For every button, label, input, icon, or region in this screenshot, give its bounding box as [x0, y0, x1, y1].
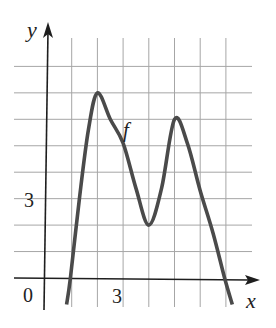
origin-label: 0	[23, 285, 33, 305]
y-axis-label: y	[27, 19, 37, 41]
x-axis	[14, 278, 250, 280]
function-graph	[0, 0, 276, 328]
curve-label-f: f	[123, 120, 129, 141]
y-axis	[44, 30, 48, 310]
x-axis-label: x	[246, 290, 256, 312]
y-tick-label-3: 3	[24, 190, 34, 210]
x-tick-label-3: 3	[112, 286, 122, 306]
